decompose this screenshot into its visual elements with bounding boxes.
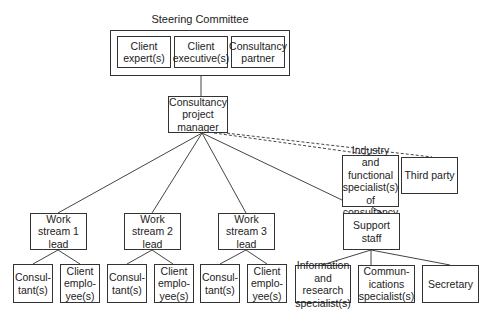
label: Client — [64, 265, 96, 278]
project-manager-box: Consultancyprojectmanager — [168, 96, 228, 133]
secretary-box: Secretary — [422, 265, 479, 303]
label: tant(s) — [109, 284, 145, 297]
label: yee(s) — [251, 290, 283, 303]
label: Secretary — [428, 278, 473, 291]
work-stream-1-lead-box: Workstream 1lead — [30, 213, 87, 250]
specialists-box: Industry andfunctionalspecialist(s) ofco… — [342, 155, 399, 207]
label: emplo- — [64, 277, 96, 290]
label: Information — [295, 259, 350, 272]
label: manager — [169, 121, 227, 134]
label: specialist(s) — [359, 290, 414, 303]
label: yee(s) — [158, 290, 190, 303]
support-staff-box: Supportstaff — [343, 213, 400, 250]
label: Consul- — [202, 271, 238, 284]
label: tant(s) — [15, 284, 51, 297]
label: Client — [173, 40, 230, 53]
label: Client — [158, 265, 190, 278]
label: project — [169, 108, 227, 121]
ws3-consultant-box: Consul-tant(s) — [200, 264, 240, 303]
label: tant(s) — [202, 284, 238, 297]
ws1-client-employee-box: Clientemplo-yee(s) — [60, 264, 100, 303]
label: stream 3 — [226, 225, 267, 238]
label: specialist(s) — [295, 297, 350, 310]
label: Consultancy — [169, 96, 227, 109]
label: Work — [132, 213, 173, 226]
label: Industry and — [343, 144, 398, 169]
label: executive(s) — [173, 52, 230, 65]
label: stream 2 — [132, 225, 173, 238]
label: Support — [353, 219, 390, 232]
label: lead — [38, 238, 79, 251]
label: Client — [251, 265, 283, 278]
label: and research — [295, 272, 350, 297]
label: emplo- — [158, 277, 190, 290]
ws1-consultant-box: Consul-tant(s) — [13, 264, 53, 303]
label: Third party — [404, 169, 454, 182]
consultancy-partner-box: Consultancypartner — [231, 36, 285, 68]
ws2-client-employee-box: Clientemplo-yee(s) — [154, 264, 194, 303]
steering-committee-title: Steering Committee — [110, 13, 290, 25]
label: expert(s) — [123, 52, 164, 65]
client-executive-box: Clientexecutive(s) — [174, 36, 228, 68]
label: ications — [359, 278, 414, 291]
label: functional — [343, 169, 398, 182]
label: yee(s) — [64, 290, 96, 303]
label: Work — [226, 213, 267, 226]
label: Client — [123, 40, 164, 53]
third-party-box: Third party — [401, 157, 458, 194]
work-stream-2-lead-box: Workstream 2lead — [124, 213, 181, 250]
label: staff — [353, 232, 390, 245]
ws3-client-employee-box: Clientemplo-yee(s) — [247, 264, 287, 303]
label: Commun- — [359, 265, 414, 278]
communications-specialist-box: Commun-icationsspecialist(s) — [358, 265, 415, 303]
label: specialist(s) of — [343, 181, 398, 206]
label: Consul- — [15, 271, 51, 284]
label: lead — [132, 238, 173, 251]
client-expert-box: Clientexpert(s) — [117, 36, 171, 68]
work-stream-3-lead-box: Workstream 3lead — [218, 213, 275, 250]
label: stream 1 — [38, 225, 79, 238]
label: emplo- — [251, 277, 283, 290]
label: partner — [229, 52, 287, 65]
label: Work — [38, 213, 79, 226]
ws2-consultant-box: Consul-tant(s) — [107, 264, 147, 303]
label: lead — [226, 238, 267, 251]
info-research-specialist-box: Informationand researchspecialist(s) — [295, 265, 351, 303]
label: Consul- — [109, 271, 145, 284]
label: Consultancy — [229, 40, 287, 53]
